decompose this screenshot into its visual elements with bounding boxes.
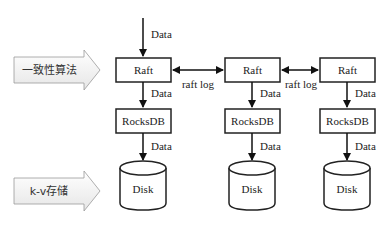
data-flow-label: Data (355, 140, 376, 152)
layer-label-consensus: 一致性算法 (22, 63, 77, 77)
rocksdb-label: RocksDB (231, 115, 274, 127)
rocksdb-label: RocksDB (326, 115, 369, 127)
raft-label: Raft (134, 64, 153, 76)
input-data-label: Data (151, 28, 172, 40)
node-column-1: Raft Data RocksDB Data Disk (116, 58, 172, 210)
diagram-canvas: 一致性算法 k-v存储 Data Raft Data RocksDB Data … (0, 0, 387, 225)
raft-log-label: raft log (182, 78, 215, 90)
raft-log-link-2-3: raft log (282, 70, 318, 90)
input-data-arrow: Data (143, 18, 172, 56)
raft-log-link-1-2: raft log (173, 70, 223, 90)
data-flow-label: Data (151, 87, 172, 99)
data-flow-label: Data (260, 87, 281, 99)
disk-label: Disk (242, 183, 263, 195)
data-flow-label: Data (355, 87, 376, 99)
node-column-2: Raft Data RocksDB Data Disk (225, 58, 281, 210)
layer-callout-storage: k-v存储 (14, 171, 100, 211)
data-flow-label: Data (151, 140, 172, 152)
disk-label: Disk (133, 183, 154, 195)
layer-label-storage: k-v存储 (30, 184, 69, 198)
raft-log-label: raft log (285, 78, 318, 90)
layer-callout-consensus: 一致性算法 (14, 50, 100, 90)
raft-label: Raft (243, 64, 262, 76)
rocksdb-label: RocksDB (122, 115, 165, 127)
data-flow-label: Data (260, 140, 281, 152)
node-column-3: Raft Data RocksDB Data Disk (320, 58, 376, 210)
raft-label: Raft (338, 64, 357, 76)
disk-label: Disk (337, 183, 358, 195)
